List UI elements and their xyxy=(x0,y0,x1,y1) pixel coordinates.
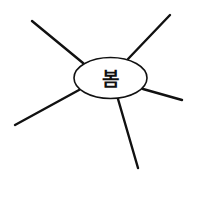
branch-line-top-right xyxy=(128,15,170,59)
center-node: 봄 xyxy=(74,58,147,99)
mind-map-diagram: 봄 xyxy=(0,0,197,199)
branch-line-right xyxy=(143,89,182,100)
branch-line-bottom xyxy=(118,99,138,168)
branch-line-lower-left xyxy=(15,90,79,125)
branch-line-top-left xyxy=(32,21,83,63)
center-node-label: 봄 xyxy=(102,68,119,90)
